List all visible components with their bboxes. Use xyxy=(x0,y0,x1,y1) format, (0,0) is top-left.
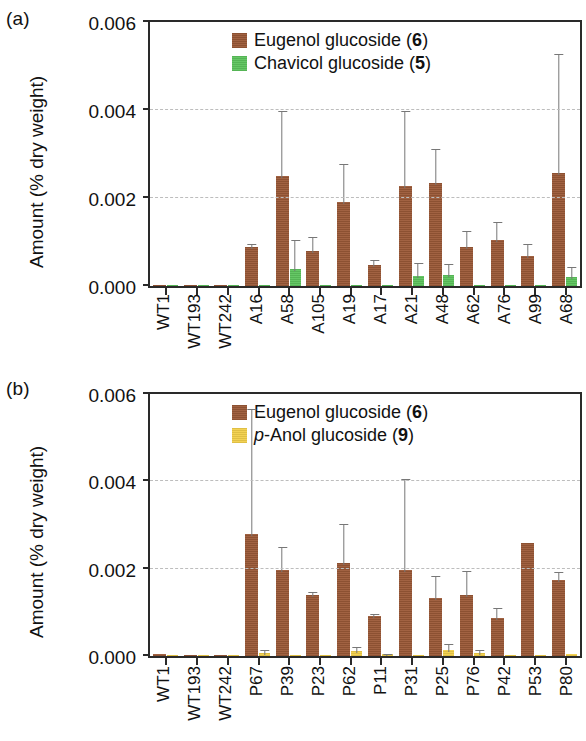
bar-wrapper xyxy=(382,22,393,286)
bar xyxy=(399,570,412,656)
error-bar xyxy=(417,263,418,278)
x-tick-label: WT242 xyxy=(216,294,236,349)
y-tick xyxy=(143,284,150,286)
x-tick-label: P31 xyxy=(402,666,422,696)
x-label-slot: WT242 xyxy=(210,290,241,368)
bar xyxy=(552,580,565,656)
bar xyxy=(521,256,534,286)
bar-wrapper xyxy=(429,22,442,286)
x-tick-label: P11 xyxy=(371,666,391,695)
error-bar xyxy=(282,111,283,178)
error-bar xyxy=(251,244,252,249)
gridline xyxy=(150,568,580,569)
x-tick-label: WT1 xyxy=(154,666,174,702)
bar-wrapper xyxy=(351,22,362,286)
panel-a-y-axis-title: Amount (% dry weight) xyxy=(26,76,48,268)
bar-wrapper xyxy=(368,394,381,656)
x-label-slot: A105 xyxy=(303,290,334,368)
y-tick-label: 0.002 xyxy=(88,560,136,582)
x-label-slot: A19 xyxy=(334,290,365,368)
error-bar xyxy=(448,644,449,652)
error-bar xyxy=(312,237,313,254)
x-label-slot: P23 xyxy=(303,662,334,740)
bar-wrapper xyxy=(320,22,331,286)
bar-wrapper xyxy=(552,22,565,286)
bar-wrapper xyxy=(245,394,258,656)
error-bar xyxy=(558,572,559,582)
x-tick-label: WT193 xyxy=(185,666,205,721)
error-bar xyxy=(404,479,405,572)
bar xyxy=(306,595,319,656)
bar xyxy=(552,173,565,286)
x-tick-label: P42 xyxy=(495,666,515,696)
x-label-slot: A99 xyxy=(520,290,551,368)
bar-wrapper xyxy=(290,22,301,286)
x-label-slot: P76 xyxy=(458,662,489,740)
x-tick-label: WT193 xyxy=(185,294,205,349)
bar-group xyxy=(396,394,427,656)
error-bar xyxy=(374,260,375,267)
x-tick-label: A76 xyxy=(495,294,515,324)
panel-a-x-labels: WT1WT193WT242A16A58A105A19A17A21A48A62A7… xyxy=(148,290,582,368)
x-tick-label: A19 xyxy=(340,294,360,324)
bar-wrapper xyxy=(337,394,350,656)
error-bar xyxy=(264,650,265,654)
y-tick xyxy=(143,20,150,22)
y-tick xyxy=(143,654,150,656)
x-label-slot: A17 xyxy=(365,290,396,368)
bar-group xyxy=(211,394,242,656)
y-tick xyxy=(143,479,150,481)
bar xyxy=(429,598,442,657)
bar-wrapper xyxy=(153,22,166,286)
bar xyxy=(491,240,504,286)
y-tick-label: 0.000 xyxy=(88,647,136,669)
y-tick-label: 0.006 xyxy=(88,385,136,407)
bar-wrapper xyxy=(228,22,239,286)
bar-wrapper xyxy=(505,394,516,656)
bar xyxy=(290,269,301,286)
bar-group xyxy=(519,22,550,286)
x-label-slot: A58 xyxy=(272,290,303,368)
x-tick-label: A105 xyxy=(309,294,329,334)
bar-wrapper xyxy=(153,394,166,656)
bar-wrapper xyxy=(214,22,227,286)
bar xyxy=(245,247,258,286)
error-bar xyxy=(448,264,449,277)
bar-group xyxy=(426,394,457,656)
bar-wrapper xyxy=(566,22,577,286)
bar-group xyxy=(273,394,304,656)
bar xyxy=(460,247,473,286)
x-label-slot: P80 xyxy=(551,662,582,740)
x-label-slot: A21 xyxy=(396,290,427,368)
error-bar xyxy=(356,647,357,653)
y-tick xyxy=(143,108,150,110)
bar-wrapper xyxy=(460,22,473,286)
bar-wrapper xyxy=(368,22,381,286)
error-bar xyxy=(374,614,375,618)
x-label-slot: WT193 xyxy=(179,662,210,740)
bar xyxy=(276,176,289,286)
error-bar xyxy=(435,149,436,186)
panel-b: (b) Amount (% dry weight) Eugenol glucos… xyxy=(0,370,586,741)
bar xyxy=(491,618,504,656)
x-label-slot: WT242 xyxy=(210,662,241,740)
bar-wrapper xyxy=(505,22,516,286)
x-tick-label: P76 xyxy=(464,666,484,696)
bar-wrapper xyxy=(184,22,197,286)
x-label-slot: P11 xyxy=(365,662,396,740)
x-tick-label: P62 xyxy=(340,666,360,696)
error-bar xyxy=(466,571,467,597)
x-tick-label: A16 xyxy=(247,294,267,324)
bar-group xyxy=(488,22,519,286)
bar-wrapper xyxy=(306,394,319,656)
error-bar xyxy=(527,244,528,258)
bar-group xyxy=(304,394,335,656)
bar-wrapper xyxy=(399,22,412,286)
bar-wrapper xyxy=(228,394,239,656)
bar xyxy=(443,275,454,286)
bar-wrapper xyxy=(290,394,301,656)
x-tick-label: P53 xyxy=(526,666,546,696)
x-tick-label: P67 xyxy=(247,666,267,696)
bar-wrapper xyxy=(566,394,577,656)
bar-group xyxy=(396,22,427,286)
